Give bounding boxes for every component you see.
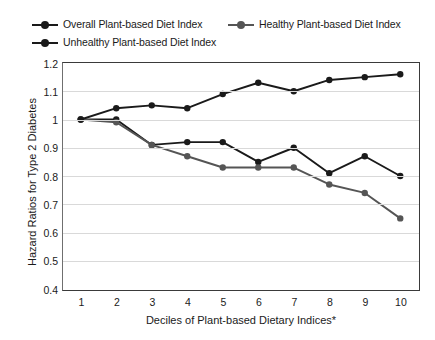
series-3 <box>78 71 404 123</box>
data-point <box>397 71 403 77</box>
legend-marker-overall-icon <box>32 19 58 30</box>
series-2 <box>78 116 404 221</box>
gridline <box>63 176 419 177</box>
data-point <box>184 105 190 111</box>
data-point <box>255 164 261 170</box>
gridline <box>63 120 419 121</box>
data-point <box>326 181 332 187</box>
data-point <box>362 153 368 159</box>
gridline <box>63 233 419 234</box>
plot-area <box>62 62 420 291</box>
y-axis-tick-label: 1.2 <box>30 58 58 70</box>
legend-item-overall[interactable]: Overall Plant-based Diet Index <box>32 19 202 30</box>
data-point <box>291 164 297 170</box>
legend-label-overall: Overall Plant-based Diet Index <box>63 19 202 30</box>
data-point <box>255 159 261 165</box>
series-line <box>81 74 401 119</box>
legend-label-healthy: Healthy Plant-based Diet Index <box>259 19 401 30</box>
x-axis-tick-label: 8 <box>327 296 333 308</box>
data-point <box>184 139 190 145</box>
gridline <box>63 91 419 92</box>
data-point <box>184 153 190 159</box>
x-axis-tick-label: 2 <box>114 296 120 308</box>
x-axis-tick-label: 7 <box>291 296 297 308</box>
y-axis-tick-label: 0.4 <box>30 284 58 296</box>
data-point <box>397 215 403 221</box>
data-point <box>113 105 119 111</box>
gridline <box>63 261 419 262</box>
data-point <box>220 139 226 145</box>
x-axis-tick-label: 6 <box>256 296 262 308</box>
data-point <box>149 102 155 108</box>
data-point <box>362 74 368 80</box>
x-axis-title: Deciles of Plant-based Dietary Indices* <box>62 314 420 326</box>
gridline <box>63 148 419 149</box>
x-axis-ticks: 12345678910 <box>62 296 420 310</box>
data-point <box>255 80 261 86</box>
x-axis-tick-label: 9 <box>362 296 368 308</box>
data-point <box>326 77 332 83</box>
chart-figure: Overall Plant-based Diet Index Healthy P… <box>0 0 435 340</box>
x-axis-tick-label: 5 <box>220 296 226 308</box>
legend-item-unhealthy[interactable]: Unhealthy Plant-based Diet Index <box>32 37 216 48</box>
x-axis-tick-label: 4 <box>185 296 191 308</box>
y-axis-title: Hazard Ratios for Type 2 Diabetes <box>26 87 38 277</box>
data-point <box>362 190 368 196</box>
legend-item-healthy[interactable]: Healthy Plant-based Diet Index <box>228 19 401 30</box>
legend-label-unhealthy: Unhealthy Plant-based Diet Index <box>63 37 216 48</box>
data-point <box>220 164 226 170</box>
x-axis-tick-label: 3 <box>149 296 155 308</box>
gridline <box>63 204 419 205</box>
legend-dot-icon <box>41 39 49 47</box>
legend-dot-icon <box>41 21 49 29</box>
legend-dot-icon <box>237 21 245 29</box>
x-axis-tick-label: 1 <box>78 296 84 308</box>
legend-marker-unhealthy-icon <box>32 37 58 48</box>
chart-legend: Overall Plant-based Diet Index Healthy P… <box>0 8 435 52</box>
legend-marker-healthy-icon <box>228 19 254 30</box>
x-axis-tick-label: 10 <box>395 296 407 308</box>
